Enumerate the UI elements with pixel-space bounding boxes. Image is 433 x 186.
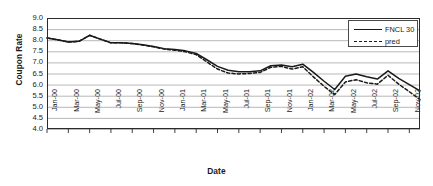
legend-item: FNCL 30 <box>353 24 417 35</box>
legend-solid-line-icon <box>354 29 382 30</box>
legend-label: FNCL 30 <box>385 25 414 34</box>
legend-item: pred <box>353 36 417 47</box>
chart-figure: Coupon Rate Date 9.08.58.07.57.06.56.05.… <box>0 0 433 186</box>
chart-legend: FNCL 30pred <box>348 20 418 47</box>
legend-dashed-line-icon <box>354 41 382 42</box>
legend-label: pred <box>385 37 400 46</box>
